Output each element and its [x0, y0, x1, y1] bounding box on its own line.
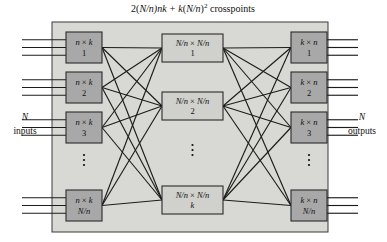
link-input-1-middle-1	[102, 48, 162, 49]
output-stage-ellipsis-dot-2	[308, 159, 310, 161]
input-switch-1-index: 1	[82, 48, 86, 58]
output-stage-ellipsis-dot-1	[308, 154, 310, 156]
input-switch-4-index: N/n	[77, 206, 90, 216]
input-side-label: Ninputs	[13, 112, 37, 136]
middle-switch-2-dimension: N/n × N/n	[175, 95, 210, 105]
output-stage-switches: k × n1k × n2k × n3k × nN/n	[291, 32, 327, 221]
link-middle-1-output-1	[223, 48, 291, 49]
output-switch-3-index: 3	[307, 128, 311, 138]
input-stage-ellipsis	[83, 154, 85, 166]
input-stage-ellipsis-dot-1	[83, 154, 85, 156]
input-switch-1[interactable]: n × k1	[66, 32, 102, 63]
input-stage-ellipsis-dot-2	[83, 159, 85, 161]
input-side-label-symbol: N	[21, 112, 29, 122]
diagram-page: 2(N/n)nk + k(N/n)2 crosspoints n × k1n ×…	[0, 0, 387, 242]
middle-switch-1-dimension: N/n × N/n	[175, 37, 210, 47]
output-side-label-word: outputs	[348, 126, 376, 136]
output-stage-ellipsis	[308, 154, 310, 166]
output-side-label: Noutputs	[348, 112, 376, 136]
output-switch-2-dimension: k × n	[300, 76, 317, 86]
input-stage-ellipsis-dot-3	[83, 164, 85, 166]
middle-switch-3-dimension: N/n × N/n	[175, 189, 210, 199]
middle-switch-2[interactable]: N/n × N/n2	[162, 92, 223, 120]
input-stage-switches: n × k1n × k2n × k3n × kN/n	[66, 32, 102, 221]
output-switch-1-dimension: k × n	[300, 36, 317, 46]
output-switch-2-index: 2	[307, 88, 311, 98]
input-switch-1-dimension: n × k	[75, 36, 92, 46]
input-switch-3-index: 3	[82, 128, 86, 138]
middle-stage-ellipsis-dot-2	[191, 149, 193, 151]
middle-switch-3-index: k	[191, 200, 195, 210]
output-switch-1[interactable]: k × n1	[291, 32, 327, 63]
output-switch-1-index: 1	[307, 48, 311, 58]
output-switch-4-dimension: k × n	[300, 194, 317, 204]
clos-network-diagram: 2(N/n)nk + k(N/n)2 crosspoints n × k1n ×…	[0, 0, 387, 242]
input-switch-2-dimension: n × k	[75, 76, 92, 86]
middle-switch-2-index: 2	[190, 106, 194, 116]
middle-stage-ellipsis-dot-1	[191, 144, 193, 146]
input-switch-2[interactable]: n × k2	[66, 72, 102, 103]
diagram-title: 2(N/n)nk + k(N/n)2 crosspoints	[131, 2, 255, 16]
input-switch-3-dimension: n × k	[75, 116, 92, 126]
output-switch-3[interactable]: k × n3	[291, 112, 327, 143]
output-switch-2[interactable]: k × n2	[291, 72, 327, 103]
input-switch-3[interactable]: n × k3	[66, 112, 102, 143]
output-stage-ellipsis-dot-3	[308, 164, 310, 166]
input-side-label-word: inputs	[13, 126, 37, 136]
input-switch-4[interactable]: n × kN/n	[66, 190, 102, 221]
output-side-label-symbol: N	[358, 112, 366, 122]
input-switch-2-index: 2	[82, 88, 86, 98]
input-switch-4-dimension: n × k	[75, 194, 92, 204]
output-switch-4[interactable]: k × nN/n	[291, 190, 327, 221]
output-switch-3-dimension: k × n	[300, 116, 317, 126]
middle-switch-3[interactable]: N/n × N/nk	[162, 186, 223, 214]
middle-switch-1[interactable]: N/n × N/n1	[162, 34, 223, 62]
middle-stage-ellipsis	[191, 144, 193, 156]
middle-switch-1-index: 1	[190, 48, 194, 58]
middle-stage-ellipsis-dot-3	[191, 154, 193, 156]
output-switch-4-index: N/n	[302, 206, 315, 216]
